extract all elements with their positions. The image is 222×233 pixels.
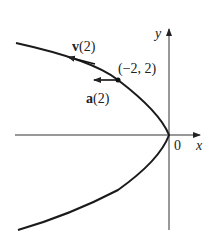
point-label: (−2, 2)	[118, 62, 156, 76]
acceleration-label: a(2)	[86, 92, 109, 106]
velocity-vector-arrow	[68, 57, 95, 64]
acceleration-arg: (2)	[93, 91, 109, 106]
diagram-canvas: y x 0 (−2, 2) v(2) a(2)	[0, 0, 222, 233]
x-axis-label: x	[196, 139, 202, 153]
velocity-symbol: v	[72, 39, 79, 54]
velocity-label: v(2)	[72, 40, 95, 54]
velocity-arg: (2)	[79, 39, 95, 54]
origin-label: 0	[174, 139, 181, 153]
y-axis-label: y	[155, 27, 161, 41]
diagram-svg	[0, 0, 222, 233]
acceleration-symbol: a	[86, 91, 93, 106]
